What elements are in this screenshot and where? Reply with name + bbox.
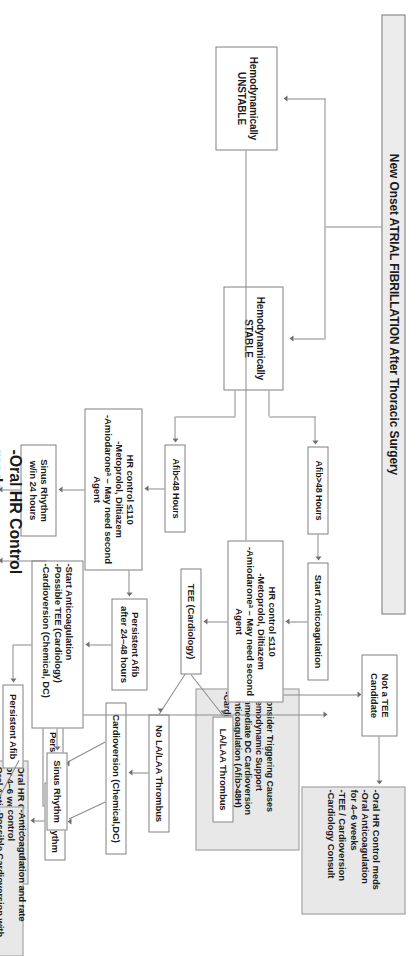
connector-cv-to-persistent [66, 741, 105, 763]
connector-stable-up [269, 416, 315, 417]
node-sinus-rhythm-mid-visible: Sinus Rhythm [46, 752, 67, 830]
connector-stable-to-gt48 [314, 416, 315, 440]
connector-title-stem [325, 226, 381, 227]
outcome-sinus-bottom-text: -Oral HR Control meds – 4–6 weeks -Antic… [0, 449, 23, 603]
node-la-laa-thrombus: LA/LAA Thrombus [212, 716, 233, 822]
node-afib-greater-48-hours: Afib>48 Hours [307, 446, 328, 534]
connector-cv-to-sinus [68, 801, 105, 819]
node-outcome-tee-pathway: -Oral HR Control meds -Oral Anticoagulat… [301, 786, 405, 914]
node-hemodynamically-unstable: Hemodynamically UNSTABLE [215, 46, 277, 150]
node-tee-cardiology: TEE (Cardiology) [180, 568, 201, 674]
connector-persistent-right-up [53, 714, 323, 715]
node-cardioversion-chemical-dc: Cardioversion (Chemical,DC) [105, 702, 126, 854]
arrow-to-hr-control-top [285, 618, 289, 624]
arrow-to-persistent-afib-mid [10, 678, 16, 682]
connector-stable-out-top [268, 390, 269, 416]
arrow-to-la-laa-thrombus [220, 710, 226, 714]
connector-stable-down [175, 416, 235, 417]
connector-p2448-drop [89, 644, 111, 645]
arrow-persistent-right-to-outcome [323, 711, 327, 717]
arrow-to-cardioversion-chem-dc [128, 769, 132, 775]
arrow-to-sinus-rhythm-mid [54, 746, 60, 750]
connector-to-unstable [287, 98, 325, 99]
node-start-anticoagulation: Start Anticoagulation [307, 562, 328, 680]
arrow-to-stable [289, 335, 293, 341]
node-persistent-afib-24-48-hours: Persistent Afib after 24–48 hours [111, 598, 147, 690]
connector-stable-out-bottom [234, 390, 235, 416]
arrow-to-no-la-laa-thrombus [157, 708, 163, 712]
node-afib-less-48-hours: Afib<48 Hours [164, 444, 185, 532]
connector-hrb-to-persistent2448 [128, 570, 129, 592]
connector-branch-bus [324, 98, 325, 338]
connector-hrb-down [62, 489, 84, 490]
connector-actions-to-sinusmid [56, 728, 57, 746]
node-persistent-afib-mid: Persistent Afib [2, 684, 23, 768]
node-unstable-actions: -Consider Triggering Causes -Hemodynamic… [195, 688, 299, 850]
node-start-anticoag-tee-cardioversion: -Start Anticoagulation -Possible TEE (Ca… [31, 560, 83, 728]
arrow-sinus-right-to-outcome [30, 817, 34, 823]
connector-stable-to-lt48 [174, 416, 175, 438]
connector-gt48-to-anticoag [317, 534, 318, 556]
node-hr-control-bottom: HR control ≤110 -Metoprolol, Diltiazem -… [84, 408, 142, 570]
connector-actions-down-persistentmid [13, 644, 31, 645]
diagram-title: New Onset ATRIAL FIBRILLATION After Thor… [381, 14, 405, 614]
connector-not-tee-to-outcome [378, 736, 379, 780]
arrow-to-hr-control-bottom [144, 485, 148, 491]
arrow-not-tee-to-outcome [376, 780, 382, 784]
node-not-tee-candidate: Not a TEE Candidate [361, 654, 397, 736]
arrow-to-sinus-rhythm-24h [58, 486, 62, 492]
node-hr-control-top: HR control ≤110 -Metoprolol, Diltiazem -… [227, 540, 283, 702]
connector-to-stable [293, 338, 325, 339]
arrow-to-start-anticoagulation [315, 556, 321, 560]
arrow-to-sinus-rhythm-right [67, 818, 71, 824]
arrow-to-unstable [283, 95, 287, 101]
node-hemodynamically-stable: Hemodynamically STABLE [223, 286, 283, 390]
connector-sinus-right-drop [34, 820, 44, 821]
node-no-la-laa-thrombus: No LA/LAA Thrombus [148, 714, 169, 832]
node-outcome-persistent-mid: -Anticoagulation and rate control -Possi… [0, 806, 23, 956]
connector-hr-top-up [283, 694, 357, 695]
arrow-to-start-anticoag-tee-cv [85, 641, 89, 647]
connector-hr-top-down [207, 621, 227, 622]
arrow-to-afib-gt48 [312, 440, 318, 444]
arrow-to-persistent-afib-24-48 [126, 592, 132, 596]
connector-actions-persistentmid-h [12, 644, 13, 678]
connector-lt48-drop [148, 488, 164, 489]
connector-no-la-laa-drop [132, 772, 148, 773]
arrow-to-afib-lt48 [172, 438, 178, 442]
arrow-to-not-tee-candidate [357, 691, 361, 697]
connector-anticoag-drop [289, 621, 307, 622]
node-sinus-rhythm-within-24-hours: Sinus Rhythm w/in 24 hours [20, 444, 56, 536]
arrow-to-tee-cardiology [203, 618, 207, 624]
